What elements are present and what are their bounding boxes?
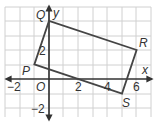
tick-label-y-neg2: −2 xyxy=(31,102,45,116)
vertex-label-q: Q xyxy=(36,8,45,22)
axis-label-x: x xyxy=(141,63,149,77)
tick-label-x-6: 6 xyxy=(133,80,140,94)
rectangle-pqrs xyxy=(34,21,136,94)
tick-label-x-2: 2 xyxy=(75,80,82,94)
origin-label: O xyxy=(36,80,45,94)
vertex-label-s: S xyxy=(122,96,130,110)
tick-label-y-2: 2 xyxy=(39,44,46,58)
axes xyxy=(8,8,152,118)
coordinate-plane-figure: Q y R P S x O −2 2 4 6 2 −2 xyxy=(0,0,156,123)
tick-label-x-4: 4 xyxy=(104,80,111,94)
tick-label-x-neg2: −2 xyxy=(7,80,21,94)
vertex-label-r: R xyxy=(139,36,148,50)
axis-label-y: y xyxy=(52,6,60,20)
vertex-label-p: P xyxy=(22,64,30,78)
